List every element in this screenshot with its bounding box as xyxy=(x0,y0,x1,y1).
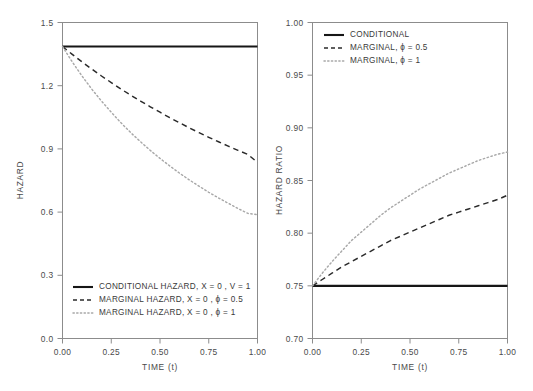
y-tick-label: 0.90 xyxy=(286,123,304,133)
x-tick-label: 0.50 xyxy=(151,347,169,357)
y-axis-title: HAZARD xyxy=(15,161,25,200)
legend: CONDITIONALMARGINAL, ϕ = 0.5MARGINAL, ϕ … xyxy=(324,30,428,65)
x-tick-label: 0.00 xyxy=(304,347,322,357)
hazard-ratio-plot-svg: 0.700.750.800.850.900.951.00 0.000.250.5… xyxy=(266,0,533,391)
y-tick-label: 1.00 xyxy=(286,18,304,28)
y-tick-label: 0.70 xyxy=(286,334,304,344)
x-tick-label: 0.25 xyxy=(352,347,370,357)
legend-label: MARGINAL HAZARD, X = 0 , ϕ = 1 xyxy=(99,308,236,317)
x-tick-label: 0.50 xyxy=(401,347,419,357)
x-tick-label: 0.75 xyxy=(450,347,468,357)
x-tick-label: 0.75 xyxy=(200,347,218,357)
y-tick-label: 0.80 xyxy=(286,228,304,238)
series-line-dotted xyxy=(63,47,258,215)
y-tick-label: 0.85 xyxy=(286,176,304,186)
legend-label: CONDITIONAL HAZARD, X = 0 , V = 1 xyxy=(99,282,251,291)
y-tick-label: 0.0 xyxy=(41,334,54,344)
series-line-dashed xyxy=(313,195,508,286)
x-tick-label: 0.25 xyxy=(102,347,120,357)
figure-canvas: 0.00.30.60.91.21.5 0.000.250.500.751.00 … xyxy=(0,0,533,391)
hazard-plot-svg: 0.00.30.60.91.21.5 0.000.250.500.751.00 … xyxy=(0,0,266,391)
y-tick-label: 0.75 xyxy=(286,281,304,291)
y-tick-label: 0.95 xyxy=(286,70,304,80)
y-tick-label: 0.9 xyxy=(41,144,54,154)
y-tick-label: 0.3 xyxy=(41,270,54,280)
plot-frame xyxy=(313,23,508,339)
data-curves xyxy=(313,152,508,286)
y-axis-title: HAZARD RATIO xyxy=(274,145,284,215)
x-axis-title: TIME (t) xyxy=(142,362,178,372)
series-line-dashed xyxy=(63,47,258,163)
hazard-plot-panel: 0.00.30.60.91.21.5 0.000.250.500.751.00 … xyxy=(0,0,266,391)
legend-label: CONDITIONAL xyxy=(350,30,409,39)
x-axis-ticks: 0.000.250.500.751.00 xyxy=(304,339,517,357)
hazard-ratio-plot-panel: 0.700.750.800.850.900.951.00 0.000.250.5… xyxy=(266,0,533,391)
x-axis-ticks: 0.000.250.500.751.00 xyxy=(54,339,266,357)
legend-label: MARGINAL, ϕ = 0.5 xyxy=(350,43,428,52)
y-tick-label: 1.5 xyxy=(41,18,54,28)
x-axis-title: TIME (t) xyxy=(392,362,428,372)
x-tick-label: 1.00 xyxy=(249,347,266,357)
legend: CONDITIONAL HAZARD, X = 0 , V = 1MARGINA… xyxy=(73,282,251,317)
data-curves xyxy=(63,47,258,215)
legend-label: MARGINAL HAZARD, X = 0 , ϕ = 0.5 xyxy=(99,295,243,304)
x-tick-label: 0.00 xyxy=(54,347,72,357)
series-line-dotted xyxy=(313,152,508,286)
legend-label: MARGINAL, ϕ = 1 xyxy=(350,56,420,65)
y-axis-ticks: 0.700.750.800.850.900.951.00 xyxy=(286,18,313,344)
y-tick-label: 1.2 xyxy=(41,81,54,91)
y-tick-label: 0.6 xyxy=(41,207,54,217)
x-tick-label: 1.00 xyxy=(499,347,517,357)
y-axis-ticks: 0.00.30.60.91.21.5 xyxy=(41,18,63,344)
